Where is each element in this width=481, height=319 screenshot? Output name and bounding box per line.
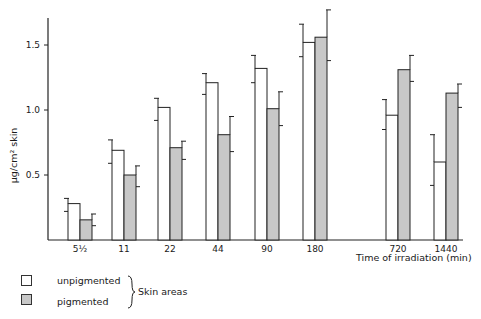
x-tick-label: 90: [261, 244, 273, 254]
x-axis-label: Time of irradiation (min): [356, 252, 472, 263]
bar-pigmented: [398, 70, 410, 240]
bar-group: [154, 98, 186, 240]
bar-pigmented: [170, 148, 182, 240]
bar-unpigmented: [112, 150, 124, 240]
legend-brace: [128, 276, 135, 308]
bar-group: [430, 84, 462, 240]
bar-pigmented: [124, 175, 136, 240]
x-tick-label: 5½: [73, 244, 88, 254]
y-tick-label: 1.5: [26, 40, 40, 50]
bar-unpigmented: [303, 42, 315, 240]
x-tick-label: 180: [306, 244, 323, 254]
bar-unpigmented: [255, 68, 267, 240]
y-tick-label: 0.5: [26, 170, 40, 180]
x-tick-label: 22: [164, 244, 175, 254]
bar-unpigmented: [206, 83, 218, 240]
bar-group: [251, 55, 283, 240]
bar-pigmented: [315, 37, 327, 240]
bar-unpigmented: [68, 204, 80, 240]
bar-chart: 5½112244901807201440 0.51.01.5: [0, 0, 481, 319]
bar-unpigmented: [434, 162, 446, 240]
bar-unpigmented: [158, 107, 170, 240]
y-axis-label: µg/cm² skin: [8, 121, 19, 191]
bar-group: [382, 55, 414, 240]
bar-group: [64, 198, 96, 240]
y-tick-labels: 0.51.01.5: [26, 40, 48, 180]
bar-pigmented: [267, 109, 279, 240]
x-tick-label: 44: [212, 244, 224, 254]
bar-group: [108, 140, 140, 240]
y-tick-label: 1.0: [26, 105, 41, 115]
bar-group: [299, 10, 331, 240]
bars: [64, 10, 462, 240]
bar-unpigmented: [386, 115, 398, 240]
bar-pigmented: [446, 93, 458, 240]
bar-pigmented: [218, 135, 230, 240]
x-tick-label: 11: [118, 244, 129, 254]
bar-group: [202, 74, 234, 240]
bar-pigmented: [80, 220, 92, 240]
